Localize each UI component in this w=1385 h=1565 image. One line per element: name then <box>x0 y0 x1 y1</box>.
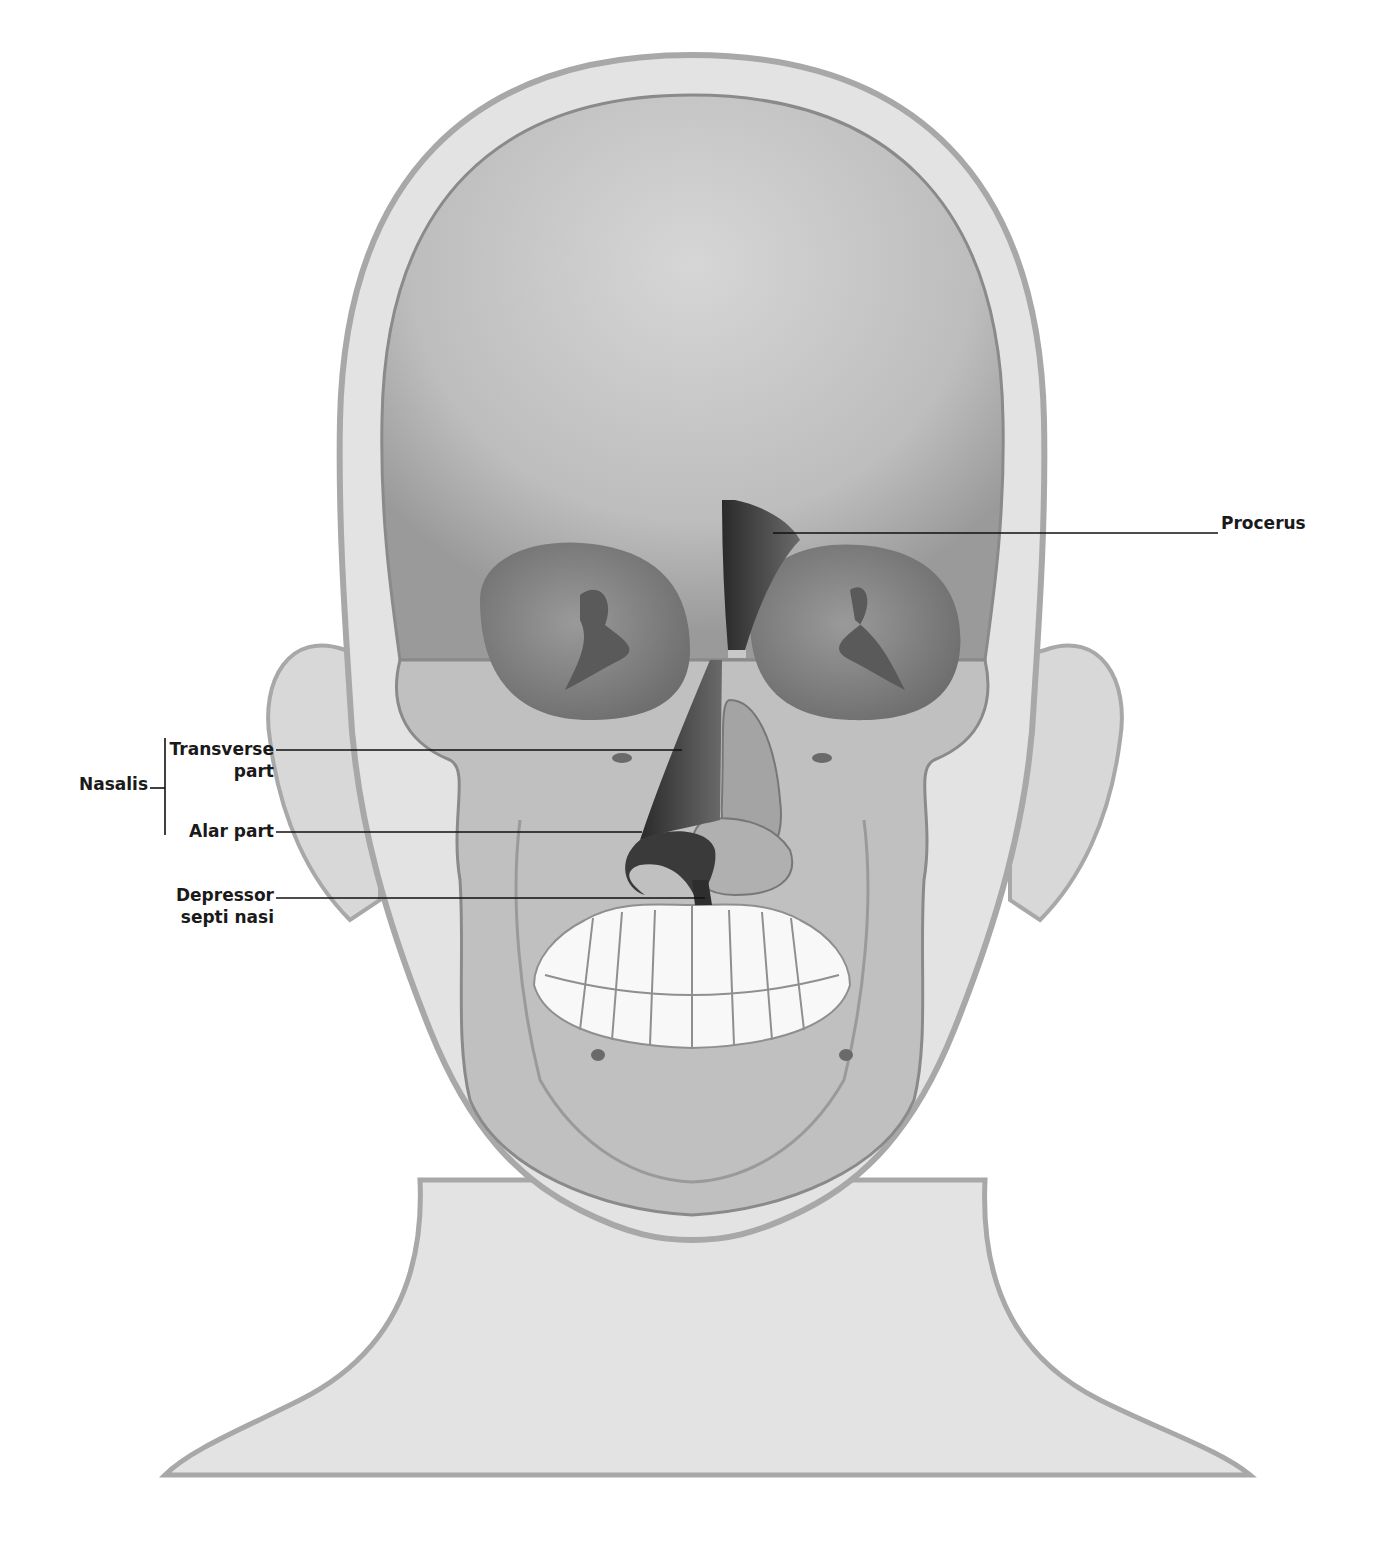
label-transverse-part: Transverse part <box>168 738 274 782</box>
label-transverse-line1: Transverse <box>168 738 274 760</box>
head-illustration <box>0 0 1385 1565</box>
procerus-tendon <box>728 650 746 658</box>
label-depressor-line2: septi nasi <box>160 906 274 928</box>
teeth <box>534 904 850 1048</box>
left-infraorbital-foramen <box>612 753 632 763</box>
label-depressor-line1: Depressor <box>160 884 274 906</box>
label-depressor-septi-nasi: Depressor septi nasi <box>160 884 274 928</box>
label-transverse-line2: part <box>168 760 274 782</box>
label-procerus: Procerus <box>1221 512 1306 534</box>
right-mental-foramen <box>839 1049 853 1061</box>
anatomy-figure: Procerus Nasalis Transverse part Alar pa… <box>0 0 1385 1565</box>
label-nasalis: Nasalis <box>79 773 148 795</box>
label-alar-part: Alar part <box>168 820 274 842</box>
right-infraorbital-foramen <box>812 753 832 763</box>
left-mental-foramen <box>591 1049 605 1061</box>
